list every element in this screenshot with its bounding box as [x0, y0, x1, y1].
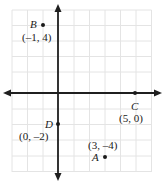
point-coords-a: (3, –4): [88, 140, 117, 151]
x-axis: [3, 90, 162, 97]
point-label-c: C: [131, 101, 138, 112]
coordinate-plane: B (–1, 4) C (5, 0) D (0, –2) (3, –4) A: [0, 0, 165, 188]
point-dot-c: [133, 91, 137, 95]
point-coords-b: (–1, 4): [22, 32, 51, 43]
point-dot-b: [41, 23, 45, 27]
point-label-d: D: [45, 119, 53, 130]
point-dot-a: [103, 155, 107, 159]
point-coords-d: (0, –2): [19, 131, 48, 142]
point-label-a: A: [92, 152, 99, 163]
point-dot-d: [56, 122, 60, 126]
axes: [0, 0, 165, 188]
point-label-b: B: [30, 19, 37, 30]
point-coords-c: (5, 0): [119, 113, 143, 124]
